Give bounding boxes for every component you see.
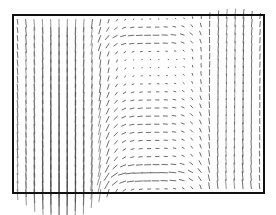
vector-arrow xyxy=(99,189,101,202)
vector-arrow xyxy=(192,57,193,60)
vector-arrow xyxy=(189,162,193,165)
vector-arrow xyxy=(17,116,18,125)
vector-arrow xyxy=(125,60,126,62)
vector-arrow xyxy=(131,92,134,93)
vector-arrow xyxy=(218,140,219,149)
vector-arrow xyxy=(114,157,117,161)
vector-arrow xyxy=(200,128,202,132)
vector-arrow xyxy=(181,139,184,140)
vector-arrow xyxy=(183,74,184,76)
vector-arrow xyxy=(136,165,143,166)
vector-arrow xyxy=(173,148,176,149)
vector-arrow xyxy=(182,26,185,27)
vector-arrow xyxy=(116,60,117,63)
vector-arrow xyxy=(17,35,18,41)
vector-arrow xyxy=(105,35,109,40)
vector-arrow xyxy=(131,149,135,150)
vector-arrow xyxy=(192,16,193,19)
vector-arrow xyxy=(129,43,134,44)
vector-arrow xyxy=(111,173,118,178)
vector-arrow xyxy=(172,43,177,44)
vector-arrow xyxy=(251,27,252,35)
vector-arrow xyxy=(127,181,134,182)
vector-arrow xyxy=(134,173,143,174)
vector-arrow xyxy=(121,124,126,126)
vector-arrow xyxy=(189,178,193,181)
vector-arrow xyxy=(178,171,184,173)
vector-arrow xyxy=(191,97,193,100)
vector-arrow xyxy=(260,29,261,35)
vector-arrow xyxy=(107,84,109,90)
vector-arrows xyxy=(17,9,260,215)
vector-arrow xyxy=(133,68,134,69)
vector-arrow xyxy=(209,150,210,157)
vector-arrow xyxy=(114,116,118,120)
vector-arrow xyxy=(251,35,252,43)
vector-arrow xyxy=(133,19,135,20)
vector-arrow xyxy=(181,107,184,108)
vector-arrow xyxy=(218,27,219,36)
vector-arrow xyxy=(106,124,109,131)
vector-arrow xyxy=(251,181,252,189)
vector-arrow xyxy=(201,47,202,51)
vector-arrow xyxy=(113,35,118,38)
vector-arrow xyxy=(181,131,184,132)
vector-arrow xyxy=(174,51,176,52)
vector-arrow xyxy=(218,43,219,52)
vector-arrow xyxy=(251,19,252,27)
vector-arrow xyxy=(179,179,184,181)
vector-arrow xyxy=(126,173,135,174)
vector-arrow xyxy=(200,152,202,156)
vector-arrow xyxy=(130,27,134,28)
vector-arrow xyxy=(209,102,210,109)
vector-arrow xyxy=(121,116,126,118)
vector-arrow xyxy=(17,100,18,108)
vector-arrow xyxy=(209,110,210,117)
vector-arrow xyxy=(98,43,100,51)
vector-arrow xyxy=(190,113,193,116)
vector-arrow xyxy=(106,27,109,32)
vector-arrow xyxy=(184,58,185,60)
vector-arrow xyxy=(106,140,109,147)
vector-arrow xyxy=(116,19,118,22)
vector-arrow xyxy=(200,104,202,108)
vector-arrow xyxy=(130,157,134,158)
vector-arrow xyxy=(201,71,202,76)
vector-arrow xyxy=(100,68,101,77)
vector-arrow xyxy=(181,115,185,116)
vector-arrow xyxy=(123,92,126,94)
vector-arrow xyxy=(138,108,143,109)
vector-arrow xyxy=(132,51,135,52)
vector-arrow xyxy=(132,84,135,85)
vector-arrow xyxy=(106,116,109,123)
vector-arrow xyxy=(182,147,185,149)
vector-arrow xyxy=(106,43,109,48)
vector-arrow xyxy=(107,51,109,56)
vector-arrow xyxy=(209,118,210,125)
vector-arrow xyxy=(184,18,185,19)
vector-arrow xyxy=(108,19,109,23)
vector-arrow xyxy=(217,180,218,189)
vector-arrow xyxy=(200,112,202,116)
vector-arrow xyxy=(17,68,18,75)
vector-arrow xyxy=(170,180,177,181)
vector-arrow xyxy=(129,116,134,117)
vector-arrow xyxy=(181,123,185,124)
vector-arrow xyxy=(173,91,176,92)
vector-arrow xyxy=(114,43,118,46)
vector-arrow xyxy=(114,140,118,144)
vector-arrow xyxy=(217,172,218,181)
vector-arrow xyxy=(122,27,126,28)
vector-arrow xyxy=(209,134,210,141)
vector-arrow xyxy=(137,124,142,125)
vector-arrow xyxy=(251,51,252,59)
vector-arrow xyxy=(122,132,126,134)
vector-arrow xyxy=(182,188,185,190)
vector-arrow xyxy=(190,130,193,133)
vector-arrow xyxy=(208,158,209,165)
vector-arrow xyxy=(26,19,27,28)
vector-arrow xyxy=(114,132,118,136)
vector-arrow xyxy=(108,60,109,65)
vector-arrow xyxy=(173,156,177,157)
vector-arrow xyxy=(114,100,117,104)
